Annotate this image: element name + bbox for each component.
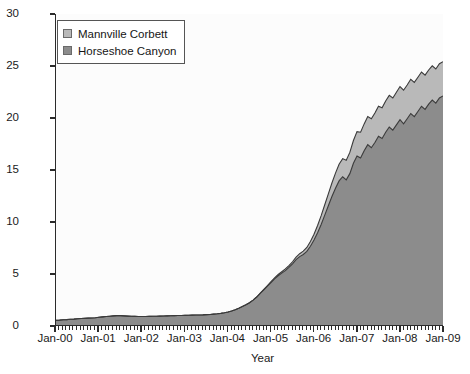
chart-legend: Mannville Corbett Horseshoe Canyon <box>57 20 185 64</box>
y-tick-label-5: 5 <box>0 267 19 279</box>
y-tick-label-25: 25 <box>0 59 19 71</box>
x-tick-minor-78 <box>335 326 336 330</box>
x-tick-minor-93 <box>389 326 390 330</box>
x-tick-minor-57 <box>259 326 260 330</box>
x-tick-minor-8 <box>83 326 84 330</box>
x-tick-minor-13 <box>101 326 102 330</box>
x-tick-minor-56 <box>256 326 257 330</box>
x-tick-minor-95 <box>396 326 397 330</box>
x-tick-minor-101 <box>417 326 418 330</box>
x-tick-minor-92 <box>385 326 386 330</box>
x-tick-minor-10 <box>90 326 91 330</box>
x-tick-minor-77 <box>331 326 332 330</box>
x-tick-minor-86 <box>363 326 364 330</box>
x-tick-minor-63 <box>281 326 282 330</box>
x-tick-minor-94 <box>392 326 393 330</box>
x-tick-minor-41 <box>202 326 203 330</box>
chart-figure: Calendar daily rate, MMm3/day, raw 05101… <box>0 0 470 374</box>
x-tick-minor-1 <box>58 326 59 330</box>
x-tick-minor-30 <box>162 326 163 330</box>
x-tick-minor-87 <box>367 326 368 330</box>
x-tick-minor-35 <box>180 326 181 330</box>
x-tick-minor-83 <box>353 326 354 330</box>
x-tick-minor-54 <box>249 326 250 330</box>
x-tick-minor-80 <box>342 326 343 330</box>
x-tick-minor-26 <box>148 326 149 330</box>
x-tick-minor-7 <box>80 326 81 330</box>
x-tick-minor-64 <box>284 326 285 330</box>
x-tick-minor-82 <box>349 326 350 330</box>
x-tick-minor-19 <box>123 326 124 330</box>
x-tick-minor-37 <box>187 326 188 330</box>
x-tick-minor-42 <box>205 326 206 330</box>
x-tick-minor-62 <box>277 326 278 330</box>
x-tick-minor-91 <box>381 326 382 330</box>
x-tick-minor-73 <box>317 326 318 330</box>
x-tick-minor-53 <box>245 326 246 330</box>
x-tick-minor-67 <box>295 326 296 330</box>
x-tick-minor-43 <box>209 326 210 330</box>
x-tick-minor-28 <box>155 326 156 330</box>
x-tick-minor-52 <box>241 326 242 330</box>
x-tick-minor-11 <box>94 326 95 330</box>
x-tick-minor-4 <box>69 326 70 330</box>
x-tick-minor-34 <box>177 326 178 330</box>
y-tick-label-20: 20 <box>0 111 19 123</box>
x-tick-minor-102 <box>421 326 422 330</box>
x-tick-minor-66 <box>292 326 293 330</box>
x-tick-minor-45 <box>216 326 217 330</box>
x-tick-minor-20 <box>126 326 127 330</box>
x-tick-minor-29 <box>159 326 160 330</box>
legend-label-horseshoe-canyon: Horseshoe Canyon <box>78 45 176 57</box>
x-tick-minor-58 <box>263 326 264 330</box>
x-tick-minor-71 <box>310 326 311 330</box>
x-tick-minor-55 <box>252 326 253 330</box>
x-tick-minor-40 <box>198 326 199 330</box>
x-tick-minor-6 <box>76 326 77 330</box>
x-tick-minor-97 <box>403 326 404 330</box>
y-tick-label-15: 15 <box>0 163 19 175</box>
x-tick-minor-88 <box>371 326 372 330</box>
legend-item-mannville-corbett: Mannville Corbett <box>63 25 176 42</box>
x-tick-minor-47 <box>223 326 224 330</box>
x-tick-minor-74 <box>320 326 321 330</box>
x-tick-minor-17 <box>116 326 117 330</box>
x-tick-minor-61 <box>274 326 275 330</box>
x-tick-minor-85 <box>360 326 361 330</box>
x-tick-minor-14 <box>105 326 106 330</box>
x-tick-minor-107 <box>439 326 440 330</box>
x-tick-minor-38 <box>191 326 192 330</box>
x-tick-minor-98 <box>407 326 408 330</box>
x-tick-minor-75 <box>324 326 325 330</box>
x-tick-minor-104 <box>428 326 429 330</box>
x-tick-minor-22 <box>134 326 135 330</box>
x-tick-minor-90 <box>378 326 379 330</box>
y-tick-label-30: 30 <box>0 7 19 19</box>
x-tick-minor-9 <box>87 326 88 330</box>
x-tick-minor-21 <box>130 326 131 330</box>
x-tick-minor-65 <box>288 326 289 330</box>
x-tick-minor-31 <box>166 326 167 330</box>
x-tick-minor-103 <box>425 326 426 330</box>
x-tick-minor-106 <box>435 326 436 330</box>
legend-swatch-horseshoe-canyon <box>63 46 72 55</box>
x-tick-minor-15 <box>108 326 109 330</box>
x-tick-minor-39 <box>195 326 196 330</box>
x-tick-minor-51 <box>238 326 239 330</box>
x-tick-minor-81 <box>346 326 347 330</box>
x-tick-minor-79 <box>338 326 339 330</box>
x-tick-minor-16 <box>112 326 113 330</box>
x-tick-minor-68 <box>299 326 300 330</box>
x-tick-minor-46 <box>220 326 221 330</box>
x-tick-minor-59 <box>266 326 267 330</box>
x-tick-minor-44 <box>213 326 214 330</box>
x-tick-minor-69 <box>302 326 303 330</box>
x-tick-minor-76 <box>328 326 329 330</box>
x-axis-title: Year <box>0 352 470 364</box>
legend-label-mannville-corbett: Mannville Corbett <box>78 28 167 40</box>
x-tick-minor-70 <box>306 326 307 330</box>
x-tick-minor-99 <box>410 326 411 330</box>
x-tick-minor-23 <box>137 326 138 330</box>
x-tick-minor-105 <box>432 326 433 330</box>
y-tick-label-0: 0 <box>0 319 19 331</box>
